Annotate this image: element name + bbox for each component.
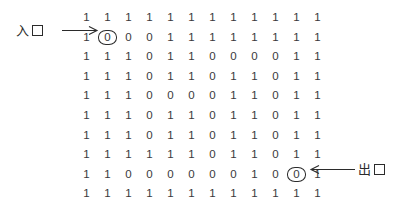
grid-cell: 1 <box>76 8 97 28</box>
grid-cell: 1 <box>307 8 328 28</box>
grid-cell: 1 <box>160 67 181 87</box>
entrance-cell: 0 <box>97 28 118 48</box>
grid-cell: 0 <box>202 106 223 126</box>
grid-cell: 1 <box>244 184 265 204</box>
grid-cell: 0 <box>160 165 181 185</box>
grid-cell: 0 <box>223 165 244 185</box>
grid-cell: 1 <box>307 28 328 48</box>
grid-cell: 1 <box>76 47 97 67</box>
grid-cell: 1 <box>286 28 307 48</box>
maze-grid: 1111111111111000111111111110110000111110… <box>76 8 328 204</box>
grid-cell: 1 <box>286 8 307 28</box>
maze-figure: 1111111111111000111111111110110000111110… <box>0 0 403 212</box>
grid-cell: 1 <box>139 145 160 165</box>
grid-cell: 1 <box>286 67 307 87</box>
grid-cell: 0 <box>265 106 286 126</box>
grid-cell: 1 <box>118 106 139 126</box>
grid-cell: 1 <box>181 67 202 87</box>
grid-cell: 1 <box>76 184 97 204</box>
grid-cell: 0 <box>265 67 286 87</box>
grid-cell: 1 <box>76 28 97 48</box>
grid-cell: 1 <box>160 126 181 146</box>
grid-cell: 0 <box>139 47 160 67</box>
grid-cell: 1 <box>118 8 139 28</box>
grid-cell: 0 <box>244 47 265 67</box>
grid-cell: 1 <box>181 8 202 28</box>
grid-cell: 0 <box>265 165 286 185</box>
grid-cell: 0 <box>181 165 202 185</box>
grid-cell: 1 <box>286 126 307 146</box>
grid-cell: 1 <box>286 184 307 204</box>
grid-cell: 1 <box>97 67 118 87</box>
grid-cell: 1 <box>307 86 328 106</box>
grid-cell: 0 <box>181 86 202 106</box>
grid-cell: 1 <box>181 145 202 165</box>
grid-cell: 0 <box>202 145 223 165</box>
grid-cell: 1 <box>160 106 181 126</box>
grid-cell: 1 <box>265 184 286 204</box>
grid-cell: 1 <box>160 184 181 204</box>
grid-cell: 1 <box>286 47 307 67</box>
grid-cell: 1 <box>118 126 139 146</box>
grid-cell: 1 <box>76 106 97 126</box>
exit-cell: 0 <box>286 165 307 185</box>
grid-cell: 0 <box>265 47 286 67</box>
grid-cell: 1 <box>97 145 118 165</box>
grid-cell: 1 <box>181 126 202 146</box>
grid-cell: 1 <box>223 184 244 204</box>
grid-cell: 1 <box>181 106 202 126</box>
grid-cell: 1 <box>223 106 244 126</box>
grid-cell: 1 <box>286 145 307 165</box>
grid-cell: 1 <box>286 106 307 126</box>
grid-cell: 0 <box>265 86 286 106</box>
entrance-label-text: 入 <box>16 24 29 37</box>
grid-cell: 1 <box>139 184 160 204</box>
grid-cell: 1 <box>244 145 265 165</box>
grid-cell: 0 <box>202 86 223 106</box>
grid-cell: 0 <box>202 47 223 67</box>
grid-cell: 1 <box>307 106 328 126</box>
grid-cell: 1 <box>244 106 265 126</box>
grid-cell: 0 <box>265 126 286 146</box>
exit-label-text: 出 <box>358 163 371 176</box>
grid-cell: 1 <box>160 145 181 165</box>
exit-label: 出 <box>358 163 385 176</box>
grid-cell: 1 <box>223 126 244 146</box>
grid-cell: 1 <box>244 165 265 185</box>
grid-cell: 1 <box>202 28 223 48</box>
grid-cell: 1 <box>118 145 139 165</box>
grid-cell: 0 <box>202 126 223 146</box>
grid-cell: 1 <box>307 126 328 146</box>
grid-cell: 1 <box>97 8 118 28</box>
grid-cell: 1 <box>139 8 160 28</box>
grid-cell: 0 <box>160 86 181 106</box>
entrance-box-icon <box>32 25 43 36</box>
grid-cell: 0 <box>265 145 286 165</box>
grid-cell: 0 <box>118 165 139 185</box>
exit-box-icon <box>374 164 385 175</box>
grid-cell: 0 <box>202 67 223 87</box>
grid-cell: 1 <box>223 28 244 48</box>
grid-cell: 1 <box>307 165 328 185</box>
grid-cell: 1 <box>223 67 244 87</box>
grid-cell: 1 <box>202 184 223 204</box>
grid-cell: 0 <box>139 165 160 185</box>
grid-cell: 0 <box>139 67 160 87</box>
grid-cell: 1 <box>76 86 97 106</box>
grid-cell: 1 <box>118 86 139 106</box>
grid-cell: 1 <box>181 47 202 67</box>
grid-cell: 1 <box>97 184 118 204</box>
grid-cell: 1 <box>307 47 328 67</box>
grid-cell: 1 <box>118 184 139 204</box>
grid-cell: 1 <box>160 47 181 67</box>
grid-cell: 1 <box>307 184 328 204</box>
grid-cell: 1 <box>97 126 118 146</box>
grid-cell: 1 <box>160 8 181 28</box>
grid-cell: 1 <box>76 126 97 146</box>
grid-cell: 1 <box>118 47 139 67</box>
grid-cell: 1 <box>181 184 202 204</box>
grid-cell: 1 <box>244 126 265 146</box>
grid-cell: 1 <box>76 67 97 87</box>
grid-cell: 1 <box>265 8 286 28</box>
grid-cell: 1 <box>118 67 139 87</box>
